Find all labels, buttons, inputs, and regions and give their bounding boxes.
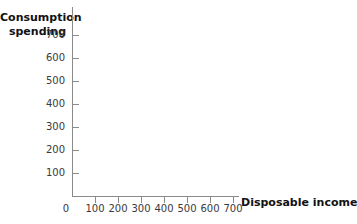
x-tick-label: 700 — [223, 204, 242, 214]
y-tick-label: 500 — [46, 76, 65, 86]
y-tick-mark — [73, 81, 79, 82]
x-tick-label: 500 — [177, 204, 196, 214]
x-tick-label: 300 — [131, 204, 150, 214]
y-axis-title-line-1: Consumption — [0, 11, 82, 24]
y-tick-mark — [73, 127, 79, 128]
y-tick-label: 200 — [46, 145, 65, 155]
y-tick-label: 600 — [46, 53, 65, 63]
origin-tick-label: 0 — [63, 204, 69, 214]
y-tick-label: 400 — [46, 99, 65, 109]
y-tick-mark — [73, 173, 79, 174]
y-tick-label: 100 — [46, 168, 65, 178]
x-tick-label: 400 — [154, 204, 173, 214]
y-tick-mark — [73, 150, 79, 151]
x-tick-label: 100 — [85, 204, 104, 214]
y-tick-label: 700 — [46, 30, 65, 40]
y-tick-mark — [73, 58, 79, 59]
plot-area — [73, 7, 239, 196]
x-axis-title: Disposable income — [241, 197, 357, 209]
x-axis-line — [72, 196, 239, 197]
y-tick-label: 300 — [46, 122, 65, 132]
x-tick-label: 200 — [108, 204, 127, 214]
x-tick-label: 600 — [200, 204, 219, 214]
y-tick-mark — [73, 35, 79, 36]
y-tick-mark — [73, 104, 79, 105]
